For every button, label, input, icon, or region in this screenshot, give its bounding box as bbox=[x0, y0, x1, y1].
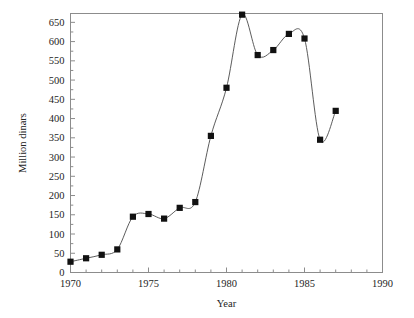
y-tick-label: 400 bbox=[49, 113, 65, 124]
y-tick-label: 500 bbox=[49, 75, 65, 86]
data-point-marker bbox=[130, 214, 136, 220]
data-point-marker bbox=[270, 47, 276, 53]
data-point-marker bbox=[208, 133, 214, 139]
x-tick-label: 1970 bbox=[60, 278, 81, 289]
data-point-marker bbox=[333, 108, 339, 114]
data-point-marker bbox=[255, 52, 261, 58]
data-point-marker bbox=[192, 199, 198, 205]
y-tick-label: 450 bbox=[49, 94, 65, 105]
y-tick-label: 200 bbox=[49, 190, 65, 201]
data-point-marker bbox=[83, 255, 89, 261]
data-point-marker bbox=[223, 85, 229, 91]
data-point-marker bbox=[177, 205, 183, 211]
plot-frame bbox=[71, 14, 383, 273]
x-tick-label: 1980 bbox=[216, 278, 237, 289]
y-tick-label: 250 bbox=[49, 171, 65, 182]
data-series-line bbox=[71, 14, 336, 262]
y-tick-label: 0 bbox=[59, 267, 64, 278]
y-tick-label: 650 bbox=[49, 17, 65, 28]
line-chart: 050100150200250300350400450500550600650 … bbox=[0, 0, 414, 318]
data-point-marker bbox=[145, 211, 151, 217]
y-axis-title: Million dinars bbox=[17, 113, 28, 173]
y-tick-label: 600 bbox=[49, 36, 65, 47]
data-point-marker bbox=[114, 246, 120, 252]
data-point-marker bbox=[301, 35, 307, 41]
x-axis-title: Year bbox=[217, 298, 237, 309]
data-point-marker bbox=[286, 31, 292, 37]
x-tick-label: 1975 bbox=[138, 278, 159, 289]
y-axis-tick-labels: 050100150200250300350400450500550600650 bbox=[49, 17, 65, 278]
chart-figure: 050100150200250300350400450500550600650 … bbox=[0, 0, 414, 318]
y-tick-label: 300 bbox=[49, 152, 65, 163]
y-tick-label: 50 bbox=[54, 248, 65, 259]
y-tick-label: 550 bbox=[49, 55, 65, 66]
y-tick-label: 150 bbox=[49, 209, 65, 220]
data-point-marker bbox=[239, 12, 245, 18]
data-point-marker bbox=[161, 216, 167, 222]
data-series-markers bbox=[67, 12, 338, 265]
x-axis-tick-labels: 19701975198019851990 bbox=[60, 278, 393, 289]
data-point-marker bbox=[67, 259, 73, 265]
x-tick-label: 1985 bbox=[294, 278, 315, 289]
data-point-marker bbox=[317, 137, 323, 143]
y-tick-label: 350 bbox=[49, 132, 65, 143]
y-tick-label: 100 bbox=[49, 229, 65, 240]
x-tick-label: 1990 bbox=[372, 278, 393, 289]
data-point-marker bbox=[99, 252, 105, 258]
